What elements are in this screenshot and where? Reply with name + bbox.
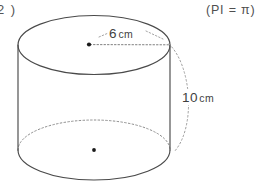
radius-label: 6cm bbox=[108, 25, 134, 41]
bottom-center-dot bbox=[92, 148, 96, 152]
height-label: 10cm bbox=[181, 89, 215, 105]
radius-value: 6 bbox=[109, 26, 117, 41]
problem-number: 2 ) bbox=[0, 3, 17, 16]
radius-leader-right bbox=[146, 31, 163, 39]
bottom-ellipse-hidden-arc bbox=[18, 120, 170, 150]
bottom-ellipse-visible-arc bbox=[18, 150, 170, 180]
height-value: 10 bbox=[182, 90, 198, 105]
geometry-figure: 2 ) (PI = π) 6cm 10cm bbox=[0, 0, 263, 190]
top-center-dot bbox=[87, 42, 91, 46]
pi-note: (PI = π) bbox=[206, 4, 255, 17]
height-unit: cm bbox=[199, 92, 214, 104]
radius-unit: cm bbox=[118, 28, 133, 40]
